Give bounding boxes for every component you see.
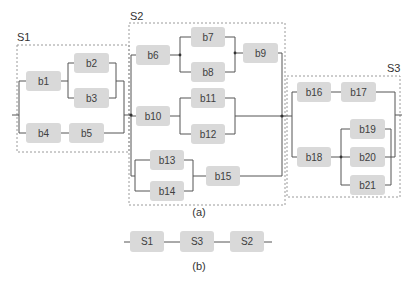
block-b14: b14 [150,181,184,201]
svg-text:b17: b17 [350,87,367,98]
svg-text:b7: b7 [202,32,214,43]
svg-text:b18: b18 [306,152,323,163]
svg-text:b15: b15 [215,171,232,182]
svg-text:b21: b21 [359,180,376,191]
svg-text:S1: S1 [141,236,154,247]
block-b8: b8 [191,62,225,82]
svg-text:b2: b2 [86,58,98,69]
group-s1-label: S1 [17,31,30,43]
block-s2-series: S2 [230,231,264,252]
svg-text:b20: b20 [359,152,376,163]
svg-text:b3: b3 [86,93,98,104]
block-b7: b7 [191,27,225,47]
block-b16: b16 [297,82,331,102]
blocks-s2: b6 b7 b8 b9 b10 b11 b12 b13 b14 b15 [136,27,278,201]
block-b2: b2 [74,53,109,73]
block-b4: b4 [26,123,61,143]
block-b5: b5 [69,123,104,143]
block-b18: b18 [297,147,331,167]
block-b21: b21 [350,175,385,195]
block-b13: b13 [150,150,184,170]
junction-dots [129,52,342,159]
series-diagram-b: S1 S3 S2 [130,231,264,252]
svg-text:b19: b19 [359,124,376,135]
block-s3-series: S3 [180,231,214,252]
group-s3-label: S3 [387,62,400,74]
svg-text:b4: b4 [38,128,50,139]
caption-b: (b) [192,260,205,272]
block-b6: b6 [136,45,170,65]
svg-text:b6: b6 [147,50,159,61]
block-b17: b17 [341,82,376,102]
svg-text:b14: b14 [159,186,176,197]
block-s1-series: S1 [130,231,164,252]
svg-text:b9: b9 [255,48,267,59]
caption-a: (a) [192,206,205,218]
svg-text:b11: b11 [200,93,216,104]
svg-text:b1: b1 [38,76,50,87]
block-b19: b19 [350,119,385,139]
block-b3: b3 [74,88,109,108]
group-s2-label: S2 [130,10,143,22]
svg-text:b5: b5 [81,128,93,139]
block-b1: b1 [26,71,61,91]
svg-text:S3: S3 [191,236,204,247]
svg-text:b13: b13 [159,155,176,166]
block-b11: b11 [191,88,225,108]
block-b12: b12 [191,124,225,144]
svg-text:b10: b10 [145,111,162,122]
block-b9: b9 [243,43,278,63]
block-b20: b20 [350,147,385,167]
svg-text:b8: b8 [202,67,214,78]
reliability-block-diagram: S1 S2 S3 [0,0,413,289]
block-b15: b15 [206,166,240,186]
block-b10: b10 [136,106,170,126]
svg-text:S2: S2 [241,236,254,247]
svg-text:b12: b12 [200,129,217,140]
svg-text:b16: b16 [306,87,323,98]
